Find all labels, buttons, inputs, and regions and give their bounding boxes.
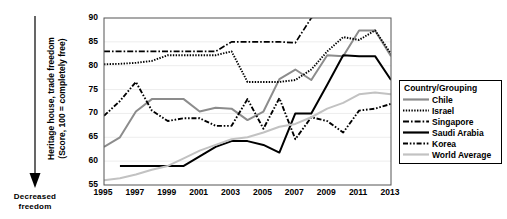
x-axis-tick-1997: 1997 — [120, 187, 150, 197]
legend-title: Country/Grouping — [404, 83, 498, 93]
y-axis-tick-90: 90 — [76, 12, 98, 22]
plot-svg — [103, 17, 392, 186]
chart-figure: Decreased freedom Heritage house, trade … — [0, 0, 507, 219]
legend-item-label: Chile — [432, 95, 453, 105]
legend-item-korea[interactable]: Korea — [403, 138, 498, 149]
x-axis-tick-2013: 2013 — [375, 187, 405, 197]
y-axis-title: Heritage house, trade freedom (Score, 10… — [46, 9, 67, 189]
legend-swatch-icon — [403, 116, 429, 127]
legend-item-chile[interactable]: Chile — [403, 94, 498, 105]
legend-swatch-icon — [403, 94, 429, 105]
legend-item-singapore[interactable]: Singapore — [403, 116, 498, 127]
x-axis-tick-2005: 2005 — [247, 187, 277, 197]
x-axis-tick-2007: 2007 — [279, 187, 309, 197]
x-axis-tick-2003: 2003 — [216, 187, 246, 197]
legend-swatch-icon — [403, 105, 429, 116]
series-line-saudi-arabia — [120, 55, 391, 166]
legend-item-label: Saudi Arabia — [432, 128, 484, 138]
legend-swatch-icon — [403, 149, 429, 160]
x-axis-tick-1995: 1995 — [88, 187, 118, 197]
series-line-world-average — [104, 92, 391, 180]
y-axis-tick-70: 70 — [76, 107, 98, 117]
y-axis-title-line2: (Score, 100 = completely free) — [56, 9, 67, 189]
y-axis-tick-75: 75 — [76, 84, 98, 94]
legend-swatch-icon — [403, 127, 429, 138]
series-line-korea — [104, 82, 391, 139]
x-axis-tick-1999: 1999 — [152, 187, 182, 197]
legend-items: ChileIsraelSingaporeSaudi ArabiaKoreaWor… — [403, 94, 498, 160]
y-axis-tick-60: 60 — [76, 155, 98, 165]
legend-item-label: Israel — [432, 106, 454, 116]
annotation-line2: freedom — [19, 202, 52, 211]
y-axis-tick-65: 65 — [76, 131, 98, 141]
series-line-singapore — [104, 17, 337, 51]
legend-item-israel[interactable]: Israel — [403, 105, 498, 116]
y-axis-title-line1: Heritage house, trade freedom — [46, 37, 56, 160]
legend-swatch-icon — [403, 138, 429, 149]
decreased-freedom-label: Decreased freedom — [2, 192, 68, 212]
x-axis-tick-2009: 2009 — [311, 187, 341, 197]
x-axis-tick-2001: 2001 — [184, 187, 214, 197]
legend-item-saudi-arabia[interactable]: Saudi Arabia — [403, 127, 498, 138]
annotation-line1: Decreased — [14, 192, 56, 201]
y-axis-tick-85: 85 — [76, 36, 98, 46]
legend-item-world-average[interactable]: World Average — [403, 149, 498, 160]
x-axis-tick-2011: 2011 — [343, 187, 373, 197]
legend-item-label: Korea — [432, 139, 456, 149]
chart-legend: Country/Grouping ChileIsraelSingaporeSau… — [399, 80, 502, 164]
series-line-chile — [104, 30, 391, 146]
y-axis-tick-80: 80 — [76, 60, 98, 70]
plot-area — [103, 17, 390, 184]
legend-item-label: Singapore — [432, 117, 474, 127]
legend-item-label: World Average — [432, 150, 491, 160]
